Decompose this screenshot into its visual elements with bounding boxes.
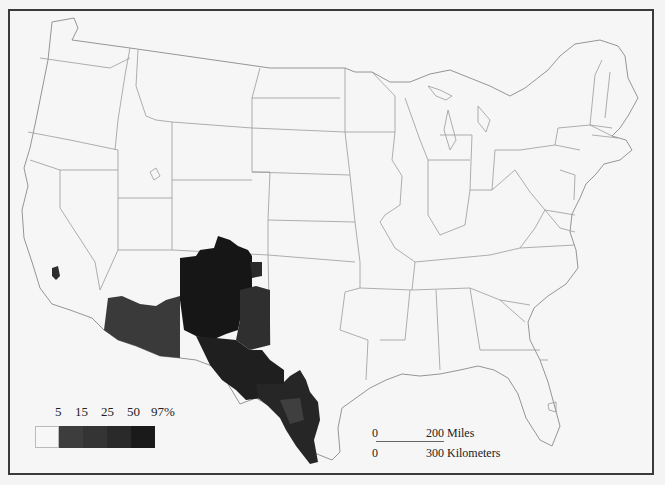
legend-swatch-1	[35, 426, 59, 448]
colorado-fringe	[250, 262, 262, 278]
new-mexico-east-counties	[236, 286, 270, 350]
legend-color-bar	[35, 426, 155, 448]
legend-label-97: 97%	[151, 404, 175, 420]
us-outline	[22, 18, 638, 460]
legend-swatch-5	[131, 426, 155, 448]
legend-label-15: 15	[75, 404, 88, 420]
legend-label-5: 5	[55, 404, 62, 420]
scale-miles-zero: 0	[372, 426, 378, 441]
scale-km-zero: 0	[372, 446, 378, 461]
scale-line	[376, 441, 444, 442]
legend-swatch-3	[83, 426, 107, 448]
scale-miles-label: 200 Miles	[426, 426, 474, 441]
southern-california-county	[52, 266, 60, 280]
legend-label-50: 50	[127, 404, 140, 420]
legend-labels: 5 15 25 50 97%	[27, 404, 197, 420]
legend-label-25: 25	[101, 404, 114, 420]
scale-km-label: 300 Kilometers	[426, 446, 500, 461]
legend-swatch-4	[107, 426, 131, 448]
legend-swatch-2	[59, 426, 83, 448]
